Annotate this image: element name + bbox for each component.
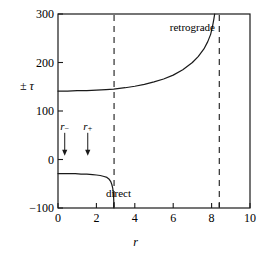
y-tick-label: 300 — [8, 8, 54, 20]
x-tick-label: 2 — [82, 212, 110, 224]
annotation-arrows — [62, 133, 90, 156]
data-curves — [58, 14, 215, 208]
curve-label-retrograde: retrograde — [166, 22, 218, 33]
y-axis-ticks — [58, 14, 63, 208]
y-tick-label: −100 — [8, 202, 54, 214]
figure-chart-tau-vs-r: 0246810−1000100200300retrogradedirectr−r… — [0, 0, 271, 255]
x-axis-title: r — [0, 236, 271, 248]
x-tick-label: 8 — [198, 212, 226, 224]
y-tick-label: 200 — [8, 57, 54, 69]
y-axis-title: ± τ — [20, 80, 34, 92]
asymptote-lines — [114, 15, 219, 207]
x-tick-label: 4 — [121, 212, 149, 224]
y-tick-label: 0 — [8, 154, 54, 166]
y-tick-label: 100 — [8, 105, 54, 117]
plot-frame — [58, 14, 250, 208]
r-plus-arrow-head — [85, 150, 90, 156]
r-plus-label: r+ — [75, 121, 101, 133]
curve-label-direct: direct — [92, 188, 144, 199]
x-axis-ticks — [58, 203, 250, 208]
x-tick-label: 6 — [159, 212, 187, 224]
x-tick-label: 10 — [236, 212, 264, 224]
r-minus-arrow-head — [62, 150, 67, 156]
